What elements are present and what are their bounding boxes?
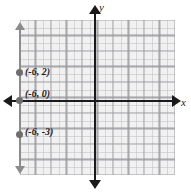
data-point-label: (-6, 2) [25,67,50,77]
x-axis-right-arrow-icon [172,95,181,107]
vertical-line-up-arrow-icon [15,22,25,30]
y-axis [94,8,96,186]
x-axis [6,100,179,102]
x-axis-left-arrow-icon [3,95,12,107]
x-axis-label: x [181,97,186,108]
data-point-label: (-6, 0) [25,89,50,99]
coordinate-plane-figure: y x (-6, 2) (-6, 0) (-6, -3) [0,0,191,194]
data-point [16,97,23,104]
data-point [16,131,23,138]
data-point-label: (-6, -3) [25,127,53,137]
y-axis-down-arrow-icon [89,180,101,189]
data-point [16,69,23,76]
vertical-line-down-arrow-icon [15,166,25,174]
y-axis-label: y [99,2,104,13]
